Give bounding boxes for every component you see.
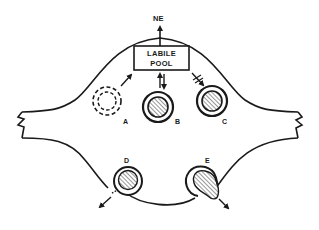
pool-label-line2: POOL: [150, 59, 173, 68]
vesicle-c: C: [192, 73, 227, 125]
label-c: C: [222, 118, 227, 125]
label-d: D: [124, 157, 129, 164]
pool-label-line1: LABILE: [147, 49, 176, 58]
block-mark-2: [195, 78, 203, 83]
vesicle-a: A: [93, 75, 131, 125]
labile-pool-box: LABILE POOL: [134, 46, 189, 70]
label-a: A: [123, 118, 128, 125]
arrow-a-to-pool: [121, 75, 131, 86]
label-e: E: [205, 157, 210, 164]
ne-label: NE: [153, 14, 163, 23]
vesicle-b: B: [143, 74, 180, 125]
ne-output: NE: [153, 14, 163, 46]
arrow-e-out: [219, 199, 228, 208]
nerve-terminal-diagram: NE LABILE POOL A B C D: [0, 0, 319, 230]
label-b: B: [175, 118, 180, 125]
arrow-d-out: [100, 197, 111, 207]
